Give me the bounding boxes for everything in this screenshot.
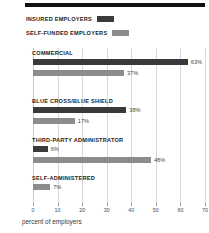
- gridline-70: [205, 48, 206, 203]
- bar-value-label: 38%: [129, 107, 140, 113]
- x-tick-20: [82, 203, 83, 206]
- bar-row: 7%: [33, 184, 61, 190]
- bar-chart-figure: INSURED EMPLOYERS SELF-FUNDED EMPLOYERS …: [0, 0, 209, 233]
- x-tick-label-70: 70: [202, 207, 208, 213]
- x-tick-label-10: 10: [55, 207, 61, 213]
- bar-row: 48%: [33, 157, 165, 163]
- bar-groups: COMMERCIAL63%37%BLUE CROSS/BLUE SHIELD38…: [33, 48, 205, 203]
- legend-label-insured-employers: INSURED EMPLOYERS: [26, 16, 92, 22]
- plot-area: COMMERCIAL63%37%BLUE CROSS/BLUE SHIELD38…: [33, 48, 205, 203]
- bar-value-label: 7%: [53, 184, 61, 190]
- x-tick-label-30: 30: [104, 207, 110, 213]
- bar-group-label: SELF-ADMINISTERED: [32, 175, 95, 181]
- legend-label-self-funded-employers: SELF-FUNDED EMPLOYERS: [26, 30, 107, 36]
- bar: [33, 70, 124, 76]
- bar: [33, 146, 48, 152]
- x-tick-40: [131, 203, 132, 206]
- bar-value-label: 6%: [51, 146, 59, 152]
- x-tick-30: [107, 203, 108, 206]
- x-axis: 010203040506070: [33, 203, 205, 215]
- bar: [33, 107, 126, 113]
- x-tick-0: [33, 203, 34, 206]
- bar-group-label: BLUE CROSS/BLUE SHIELD: [32, 98, 113, 104]
- top-rule-divider: [25, 3, 205, 7]
- x-tick-label-60: 60: [177, 207, 183, 213]
- bar-value-label: 17%: [78, 118, 89, 124]
- bar-group-label: THIRD-PARTY ADMINISTRATOR: [32, 137, 123, 143]
- legend-item-self-funded-employers: SELF-FUNDED EMPLOYERS: [26, 27, 206, 38]
- legend-swatch-self-funded-employers: [112, 30, 129, 36]
- bar: [33, 118, 75, 124]
- bar: [33, 59, 188, 65]
- bar-value-label: 63%: [191, 59, 202, 65]
- x-tick-10: [58, 203, 59, 206]
- bar-row: 17%: [33, 118, 89, 124]
- bar-value-label: 48%: [154, 157, 165, 163]
- x-tick-50: [156, 203, 157, 206]
- bar-value-label: 37%: [127, 70, 138, 76]
- x-axis-title: percent of employers: [22, 218, 82, 225]
- bar-row: 6%: [33, 146, 59, 152]
- x-tick-label-0: 0: [32, 207, 35, 213]
- bar: [33, 157, 151, 163]
- x-tick-60: [180, 203, 181, 206]
- bar-row: 37%: [33, 70, 138, 76]
- x-tick-70: [205, 203, 206, 206]
- bar-group-label: COMMERCIAL: [32, 50, 73, 56]
- x-tick-label-50: 50: [153, 207, 159, 213]
- bar-row: 63%: [33, 59, 202, 65]
- x-tick-label-40: 40: [128, 207, 134, 213]
- x-tick-label-20: 20: [79, 207, 85, 213]
- chart-legend: INSURED EMPLOYERS SELF-FUNDED EMPLOYERS: [26, 13, 206, 41]
- bar-row: 38%: [33, 107, 141, 113]
- bar: [33, 184, 50, 190]
- legend-swatch-insured-employers: [97, 16, 114, 22]
- legend-item-insured-employers: INSURED EMPLOYERS: [26, 13, 206, 24]
